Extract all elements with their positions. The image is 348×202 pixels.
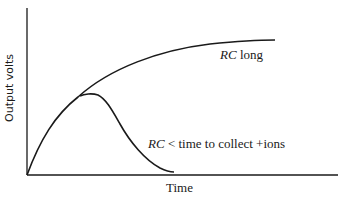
x-axis-label: Time <box>166 181 193 194</box>
rc-short-label: RC < time to collect +ions <box>148 137 285 150</box>
diagram-canvas <box>0 0 348 202</box>
rc-short-label-text: < time to collect +ions <box>165 136 285 151</box>
y-axis-label: Output volts <box>4 54 15 122</box>
rc-long-label-symbol: RC <box>220 47 237 62</box>
rc-long-label: RC long <box>220 48 263 61</box>
rc-short-curve <box>80 94 174 172</box>
rc-long-label-text: long <box>237 47 263 62</box>
output-voltage-diagram: Output volts Time RC long RC < time to c… <box>0 0 348 202</box>
rc-short-label-symbol: RC <box>148 136 165 151</box>
